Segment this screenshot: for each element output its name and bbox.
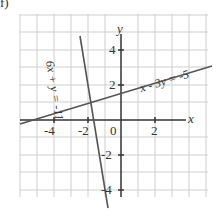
- x-axis-label: x: [188, 112, 194, 125]
- x-tick-2: 2: [151, 124, 158, 137]
- y-tick-4: 4: [109, 43, 116, 56]
- x-tick-neg4: -4: [44, 124, 55, 137]
- problem-label: f): [0, 0, 9, 9]
- y-tick-2: 2: [109, 78, 116, 91]
- y-tick-neg4: -4: [101, 183, 112, 196]
- origin-label: 0: [110, 124, 117, 137]
- y-tick-neg2: -2: [101, 148, 112, 161]
- x-tick-neg2: -2: [78, 124, 89, 137]
- y-axis-label: y: [117, 22, 123, 35]
